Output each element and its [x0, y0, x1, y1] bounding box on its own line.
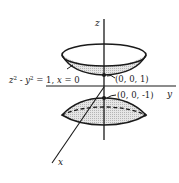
leader-point-neg1: [107, 95, 116, 98]
point-0-0-neg1: [102, 96, 106, 100]
point-0-0-1: [102, 73, 106, 77]
z-axis-label: z: [94, 18, 100, 28]
x-axis-label: x: [58, 157, 63, 167]
trace-equation-label: z2 - y2 = 1, x = 0: [8, 75, 80, 85]
point-0-0-neg1-label: (0, 0, -1): [117, 90, 154, 100]
point-0-0-1-label: (0, 0, 1): [115, 74, 149, 84]
leader-point-1: [107, 75, 115, 78]
y-axis-label: y: [166, 89, 173, 99]
rim-end-dot: [143, 113, 146, 116]
hyperboloid-diagram: z y x (0, 0, 1) (0, 0, -1) z2 - y2 = 1, …: [0, 0, 179, 183]
